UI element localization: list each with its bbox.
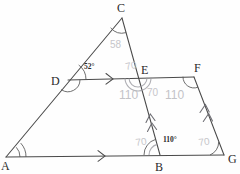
geometry-diagram: A B C D E F G 52° 110° 58 70 110 70 110 … <box>0 0 240 174</box>
arc-at-A-inner <box>16 147 20 157</box>
printed-angle-labels: 52° 110° <box>84 62 177 144</box>
vertex-label-C: C <box>117 1 125 15</box>
pencil-angle-EBA: 70 <box>135 135 148 148</box>
vertex-label-F: F <box>194 61 201 75</box>
segment-AC <box>6 18 122 157</box>
segment-DF-transversal <box>68 77 194 80</box>
diagram-canvas: A B C D E F G 52° 110° 58 70 110 70 110 … <box>0 0 240 174</box>
vertex-label-E: E <box>141 63 148 77</box>
segment-AG-base <box>6 155 224 157</box>
arc-at-B-soft <box>149 144 157 155</box>
arc-at-D-inner <box>61 80 80 92</box>
angle-label-D: 52° <box>84 62 95 71</box>
pencil-angle-CE: 70 <box>124 59 137 72</box>
pencil-angle-BEF: 70 <box>147 87 159 98</box>
pencil-annotations: 58 70 110 70 110 70 70 <box>110 39 211 148</box>
pencil-angle-FGB: 70 <box>198 135 211 148</box>
vertex-label-D: D <box>51 74 60 88</box>
pencil-angle-EFG: 110 <box>165 88 184 102</box>
vertex-label-B: B <box>155 160 163 174</box>
vertex-label-G: G <box>228 152 237 166</box>
pencil-angle-DEB: 110 <box>119 88 138 102</box>
vertex-label-A: A <box>1 159 10 173</box>
angle-label-B: 110° <box>163 135 177 144</box>
arc-at-E-second <box>129 78 147 87</box>
pencil-angle-C: 58 <box>110 39 122 50</box>
arc-at-A-outer <box>21 143 26 157</box>
arc-at-G <box>210 142 219 155</box>
